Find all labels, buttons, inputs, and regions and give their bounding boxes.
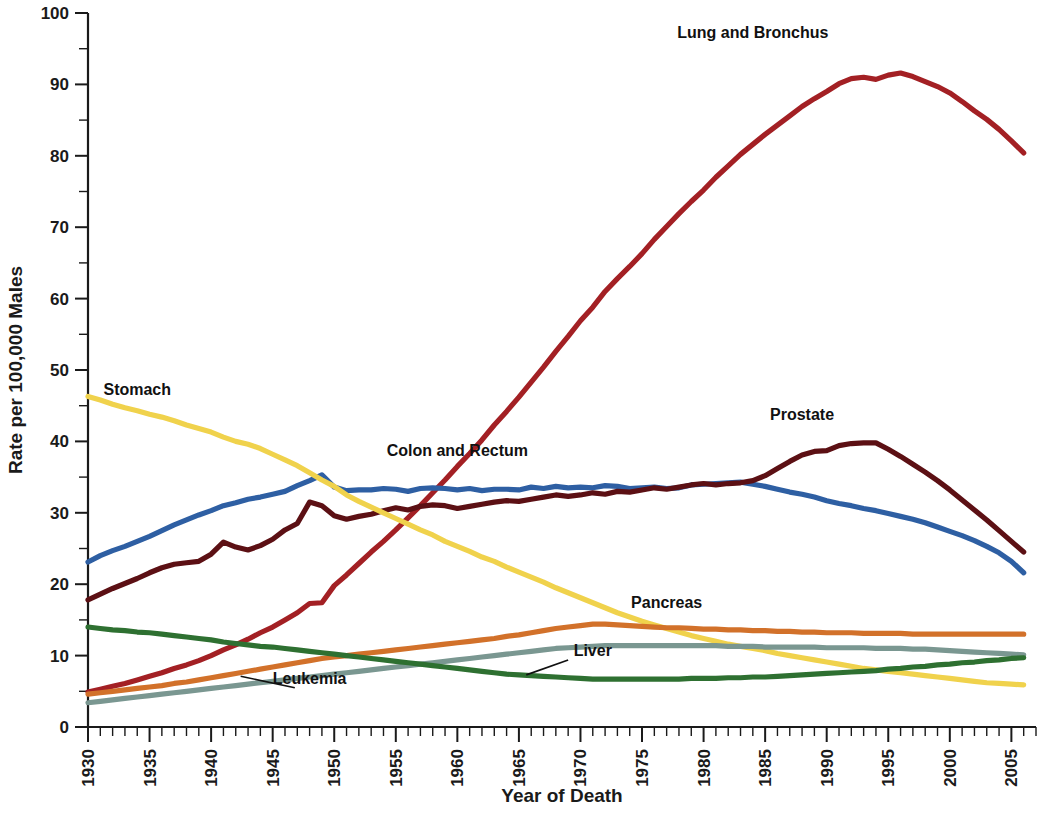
series-annotations: Lung and BronchusStomachColon and Rectum… xyxy=(103,24,834,687)
x-tick-label: 1950 xyxy=(325,749,344,787)
y-tick-label: 100 xyxy=(41,4,69,23)
series-label-liver: Liver xyxy=(574,642,612,659)
series-lines xyxy=(88,73,1024,703)
liver-leader xyxy=(526,660,568,675)
x-tick-label: 1985 xyxy=(756,749,775,787)
x-tick-label: 1990 xyxy=(818,749,837,787)
y-tick-label: 20 xyxy=(50,575,69,594)
x-tick-label: 1960 xyxy=(448,749,467,787)
y-tick-label: 80 xyxy=(50,147,69,166)
x-tick-label: 1945 xyxy=(264,749,283,787)
x-axis-title: Year of Death xyxy=(501,785,622,806)
series-line-colon-and-rectum xyxy=(88,475,1024,573)
x-tick-label: 1955 xyxy=(387,749,406,787)
plot-axes xyxy=(88,13,1036,727)
y-axis: 0102030405060708090100 xyxy=(41,4,88,737)
series-line-prostate xyxy=(88,443,1024,600)
x-tick-label: 1940 xyxy=(202,749,221,787)
x-tick-label: 1975 xyxy=(633,749,652,787)
y-tick-label: 30 xyxy=(50,504,69,523)
y-axis-title: Rate per 100,000 Males xyxy=(5,266,26,474)
y-tick-label: 90 xyxy=(50,75,69,94)
y-tick-label: 0 xyxy=(60,718,69,737)
x-tick-label: 2000 xyxy=(941,749,960,787)
x-tick-label: 1930 xyxy=(79,749,98,787)
y-tick-label: 60 xyxy=(50,290,69,309)
x-tick-label: 2005 xyxy=(1002,749,1021,787)
x-tick-label: 1935 xyxy=(141,749,160,787)
x-axis: 1930193519401945195019551960196519701975… xyxy=(79,727,1036,787)
x-tick-label: 1965 xyxy=(510,749,529,787)
y-tick-label: 40 xyxy=(50,432,69,451)
x-tick-label: 1980 xyxy=(695,749,714,787)
chart-page: 0102030405060708090100 19301935194019451… xyxy=(0,0,1041,813)
series-label-leukemia: Leukemia xyxy=(273,670,347,687)
series-label-prostate: Prostate xyxy=(770,406,834,423)
series-label-pancreas: Pancreas xyxy=(631,594,702,611)
y-tick-label: 70 xyxy=(50,218,69,237)
x-tick-label: 1995 xyxy=(879,749,898,787)
series-label-stomach: Stomach xyxy=(103,381,171,398)
series-line-lung-and-bronchus xyxy=(88,73,1024,692)
series-line-pancreas xyxy=(88,624,1024,694)
y-tick-label: 50 xyxy=(50,361,69,380)
y-tick-label: 10 xyxy=(50,647,69,666)
cancer-mortality-line-chart: 0102030405060708090100 19301935194019451… xyxy=(0,0,1041,813)
series-label-colon-and-rectum: Colon and Rectum xyxy=(387,442,528,459)
series-label-lung-and-bronchus: Lung and Bronchus xyxy=(677,24,828,41)
x-tick-label: 1970 xyxy=(571,749,590,787)
